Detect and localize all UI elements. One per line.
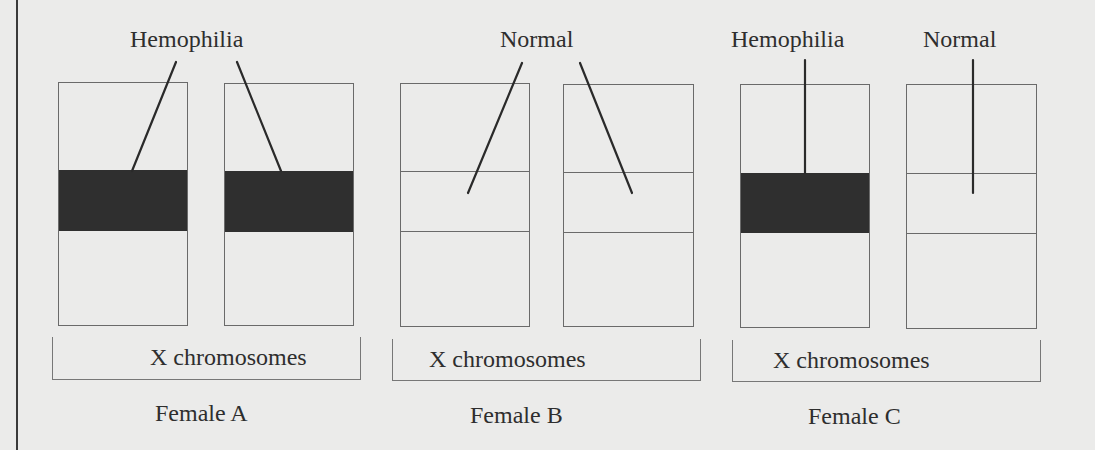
x-chromosome-b1 <box>400 83 530 327</box>
normal-allele-band <box>401 171 529 232</box>
bracket-label-c: X chromosomes <box>773 348 930 372</box>
page-edge-line <box>16 0 18 450</box>
allele-label-hemophilia: Hemophilia <box>731 27 844 51</box>
allele-label-normal: Normal <box>500 27 573 51</box>
bracket-label-b: X chromosomes <box>429 347 586 371</box>
normal-allele-band <box>907 173 1036 234</box>
x-chromosome-c2 <box>906 84 1037 329</box>
normal-allele-band <box>564 172 693 233</box>
bracket-label-a: X chromosomes <box>150 345 307 369</box>
hemophilia-allele-band <box>741 173 869 233</box>
allele-label-hemophilia: Hemophilia <box>130 27 243 51</box>
hemophilia-allele-band <box>225 171 353 232</box>
allele-label-normal: Normal <box>923 27 996 51</box>
caption-female-a: Female A <box>155 401 248 425</box>
x-chromosome-a2 <box>224 83 354 326</box>
x-chromosome-c1 <box>740 84 870 328</box>
hemophilia-allele-band <box>59 170 187 231</box>
x-chromosome-a1 <box>58 82 188 326</box>
caption-female-c: Female C <box>808 404 901 428</box>
caption-female-b: Female B <box>470 403 563 427</box>
x-chromosome-diagram: Hemophilia X chromosomes Female A Normal… <box>0 0 1095 450</box>
x-chromosome-b2 <box>563 84 694 327</box>
